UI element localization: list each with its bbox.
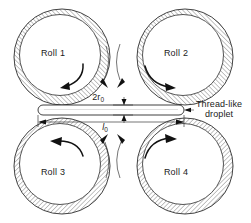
four-roll-mill-diagram: Roll 1 Roll 2 Roll 3 (0, 0, 251, 223)
gap-arrowhead-top-right (117, 78, 125, 88)
thickness-arrowhead-down (122, 99, 127, 105)
droplet-callout-line1: Thread-like (196, 99, 242, 109)
droplet-group (38, 105, 184, 115)
roll-3-group: Roll 3 (10, 114, 114, 218)
thickness-arrowhead-up (122, 115, 127, 121)
roll-3-label: Roll 3 (41, 167, 65, 177)
roll-2-label: Roll 2 (164, 48, 188, 58)
roll-4-group: Roll 4 (133, 114, 237, 218)
roll-3-hatch-rim (10, 114, 114, 218)
roll-4-label: Roll 4 (164, 167, 188, 177)
gap-arc-bottom-right (117, 142, 121, 178)
droplet-callout-line2: droplet (205, 109, 234, 119)
roll-1-label: Roll 1 (41, 48, 65, 58)
figure-canvas: Roll 1 Roll 2 Roll 3 (0, 0, 251, 223)
thread-like-droplet-shape (38, 105, 184, 115)
roll-2-group: Roll 2 (133, 5, 237, 109)
gap-arc-top-right (117, 44, 121, 80)
roll-4-hatch-rim (133, 114, 237, 218)
